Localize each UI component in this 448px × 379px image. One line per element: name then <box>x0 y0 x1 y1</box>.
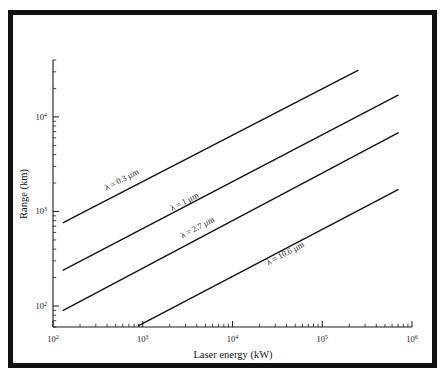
x-axis-title: Laser energy (kW) <box>193 349 273 361</box>
x-tick-label: 102 <box>47 334 59 344</box>
y-axis-title: Range (km) <box>18 169 30 219</box>
series-label-lambda-10.6um: λ = 10.6 µm <box>265 240 306 267</box>
series-label-lambda-2.7um: λ = 2.7 µm <box>179 215 216 240</box>
log-log-chart: 102103104105106 102103104 λ = 0.3 µmλ = … <box>0 0 448 379</box>
y-tick-label: 103 <box>36 206 48 216</box>
x-tick-label: 103 <box>137 334 149 344</box>
y-axis-tick-labels: 102103104 <box>36 112 48 311</box>
figure-container: 102103104105106 102103104 λ = 0.3 µmλ = … <box>0 0 448 379</box>
series-label-lambda-1um: λ = 1 µm <box>169 190 201 212</box>
y-tick-label: 102 <box>36 301 48 311</box>
series-lines <box>63 70 398 325</box>
x-axis-ticks <box>53 321 412 327</box>
series-label-lambda-0.3um: λ = 0.3 µm <box>103 167 140 192</box>
x-tick-label: 106 <box>406 334 418 344</box>
x-tick-label: 104 <box>227 334 239 344</box>
y-axis-ticks <box>53 60 59 327</box>
x-tick-label: 105 <box>317 334 329 344</box>
series-line-lambda-0.3um <box>63 70 358 222</box>
y-tick-label: 104 <box>36 112 48 122</box>
series-labels: λ = 0.3 µmλ = 1 µmλ = 2.7 µmλ = 10.6 µm <box>103 167 306 267</box>
series-line-lambda-2.7um <box>63 133 398 311</box>
x-axis-tick-labels: 102103104105106 <box>47 334 418 344</box>
